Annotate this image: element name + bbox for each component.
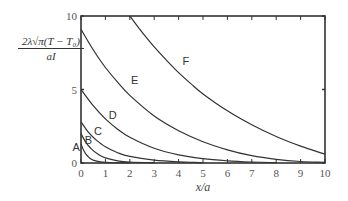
curve-label-a: A	[72, 141, 80, 153]
x-tick-label: 2	[127, 167, 133, 179]
x-tick-label: 7	[249, 167, 255, 179]
curve-d	[81, 90, 276, 163]
x-tick-label: 10	[320, 167, 332, 179]
y-tick-label: 10	[66, 10, 78, 22]
curve-label-c: C	[94, 125, 102, 137]
y-axis-label-numerator: 2λ√π(T − T₀)	[22, 35, 80, 47]
curves	[81, 16, 325, 163]
x-axis-label: x/a	[195, 180, 211, 194]
x-tick-label: 9	[298, 167, 304, 179]
x-tick-label: 1	[103, 167, 109, 179]
curve-label-d: D	[109, 109, 117, 121]
x-tick-label: 3	[151, 167, 157, 179]
x-tick-label: 8	[273, 167, 279, 179]
curve-label-b: B	[85, 134, 92, 146]
x-tick-label: 5	[200, 167, 206, 179]
curve-label-f: F	[183, 55, 190, 67]
y-tick-label: 0	[72, 157, 78, 169]
chart-plot: ABCDEF 0123456789100510 x/a	[0, 0, 348, 201]
x-tick-label: 6	[225, 167, 231, 179]
curve-label-e: E	[131, 74, 138, 86]
x-tick-label: 4	[176, 167, 182, 179]
x-tick-label: 0	[78, 167, 84, 179]
y-axis-label: 2λ√π(T − T₀) aI	[18, 35, 84, 62]
curve-f	[130, 16, 325, 154]
tick-labels: 0123456789100510	[66, 10, 331, 179]
curve-e	[81, 29, 325, 162]
y-tick-label: 5	[72, 84, 78, 96]
y-axis-label-denominator: aI	[46, 50, 55, 62]
